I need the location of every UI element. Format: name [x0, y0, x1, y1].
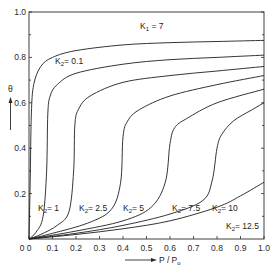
x-tick-label: 0 — [27, 243, 32, 253]
x-tick-label: 0.2 — [70, 243, 82, 253]
isotherm-curve — [29, 66, 264, 239]
x-axis-arrowhead-icon — [151, 258, 157, 262]
x-tick-label: 0.4 — [117, 243, 129, 253]
y-axis-arrowhead-icon — [9, 97, 13, 103]
k2-annotation: K2= 5 — [123, 203, 144, 214]
x-tick-label: 0.3 — [94, 243, 106, 253]
k2-annotation: K2= 1 — [38, 203, 59, 214]
origin-label: 0 — [20, 243, 25, 253]
k2-annotation: K2= 10 — [212, 203, 238, 214]
x-tick-label: 0.6 — [164, 243, 176, 253]
k2-annotation: K2= 2.5 — [79, 203, 107, 214]
isotherm-curve — [29, 103, 264, 239]
k1-annotation: K1 = 7 — [140, 21, 164, 32]
y-axis-label: θ — [8, 84, 13, 94]
x-tick-label: 0.5 — [141, 243, 153, 253]
isotherm-curve — [29, 76, 264, 239]
k2-annotation: K2= 0.1 — [55, 56, 83, 67]
y-tick-label: 0.8 — [14, 52, 26, 62]
y-tick-label: 0.6 — [14, 98, 26, 108]
x-tick-label: 0.9 — [235, 243, 247, 253]
x-tick-label: 0.8 — [211, 243, 223, 253]
adsorption-isotherm-chart: 0.20.40.60.81.0 00.10.20.30.40.50.60.70.… — [0, 0, 273, 276]
y-axis-ticks: 0.20.40.60.81.0 — [14, 7, 264, 216]
x-tick-label: 0.7 — [188, 243, 200, 253]
x-tick-label: 1.0 — [258, 243, 270, 253]
x-tick-label: 0.1 — [47, 243, 59, 253]
k2-annotation: K2= 7.5 — [172, 203, 200, 214]
y-tick-label: 0.4 — [14, 143, 26, 153]
isotherm-curve — [29, 89, 264, 239]
k2-annotation: K2= 12.5 — [226, 221, 259, 232]
y-tick-label: 1.0 — [14, 7, 26, 17]
x-axis-label: P / Po — [159, 255, 181, 266]
y-tick-label: 0.2 — [14, 189, 26, 199]
